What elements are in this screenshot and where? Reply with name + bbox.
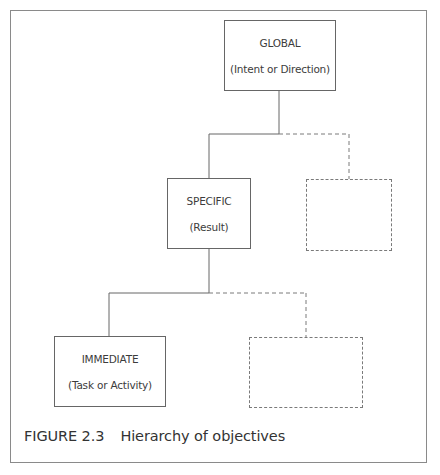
figure-number: FIGURE 2.3 (24, 428, 104, 444)
node-immediate-placeholder (249, 337, 363, 408)
node-specific-placeholder (306, 179, 392, 251)
node-immediate-title: IMMEDIATE (82, 353, 139, 365)
figure-title: Hierarchy of objectives (120, 428, 285, 444)
node-specific-subtitle: (Result) (189, 221, 228, 233)
node-specific: SPECIFIC (Result) (167, 178, 251, 249)
node-immediate: IMMEDIATE (Task or Activity) (54, 336, 166, 407)
node-global: GLOBAL (Intent or Direction) (224, 20, 336, 91)
figure-caption: FIGURE 2.3Hierarchy of objectives (24, 428, 285, 444)
node-specific-title: SPECIFIC (187, 195, 232, 207)
node-global-title: GLOBAL (260, 37, 301, 49)
node-immediate-subtitle: (Task or Activity) (68, 379, 152, 391)
node-global-subtitle: (Intent or Direction) (230, 63, 330, 75)
